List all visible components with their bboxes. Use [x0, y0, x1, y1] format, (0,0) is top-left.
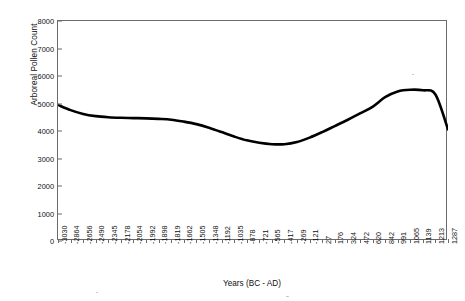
y-axis-tick-mark [58, 76, 62, 77]
x-axis-tick-label: -417 [286, 230, 295, 244]
pollen-count-chart: Arboreal Pollen Count 010002000300040005… [0, 0, 465, 301]
y-axis-tick-mark [58, 21, 62, 22]
y-axis-tick-label: 5000 [10, 99, 58, 108]
x-axis-tick-label: -2656 [85, 226, 94, 244]
x-axis-tick-label: -878 [248, 230, 257, 244]
x-axis-tick-label: 991 [399, 232, 408, 244]
x-axis-tick-label: -269 [299, 230, 308, 244]
y-axis-tick-mark [58, 213, 62, 214]
y-axis-tick-mark [58, 186, 62, 187]
x-axis-title: Years (BC - AD) [57, 279, 447, 288]
y-axis-tick-mark [58, 48, 62, 49]
x-axis-tick-label: -721 [261, 230, 270, 244]
x-axis-tick-mark [385, 239, 386, 243]
x-axis-tick-label: 1287 [450, 228, 459, 244]
x-axis-tick-label: -1819 [173, 226, 182, 244]
x-axis-tick-label: -3030 [60, 226, 69, 244]
y-axis-tick-mark [58, 103, 62, 104]
x-axis-tick-label: 1213 [437, 228, 446, 244]
y-axis-tick-label: 3000 [10, 154, 58, 163]
x-axis-tick-label: 176 [336, 232, 345, 244]
x-axis-tick-label: -2178 [123, 226, 132, 244]
x-axis-tick-label: -2864 [72, 226, 81, 244]
x-axis-tick-label: -1505 [198, 226, 207, 244]
scan-speck [412, 74, 414, 75]
scan-speck [96, 292, 98, 293]
x-axis-tick-label: 27 [324, 236, 333, 244]
y-axis-tick-label: 0 [10, 237, 58, 246]
x-axis-tick-label: -1662 [185, 226, 194, 244]
pollen-curve-line [58, 90, 448, 145]
y-axis-tick-label: 1000 [10, 209, 58, 218]
x-axis-tick-label: -2490 [97, 226, 106, 244]
y-axis-tick-mark [58, 158, 62, 159]
x-axis-tick-mark [58, 239, 59, 243]
y-axis-tick-mark [58, 131, 62, 132]
plot-area: 010002000300040005000600070008000 [57, 20, 447, 240]
scan-speck [286, 296, 289, 297]
x-axis-tick-label: 324 [349, 232, 358, 244]
x-axis-tick-label: -1348 [211, 226, 220, 244]
x-axis-tick-mark [146, 239, 147, 243]
x-axis-tick-label: 842 [387, 232, 396, 244]
x-axis-tick-label: -565 [273, 230, 282, 244]
x-axis-tick-label: -121 [311, 230, 320, 244]
x-axis-tick-mark [121, 239, 122, 243]
y-axis-tick-label: 6000 [10, 72, 58, 81]
x-axis-tick-label: -1192 [223, 226, 232, 244]
y-axis-tick-label: 7000 [10, 44, 58, 53]
x-axis-tick-label: -1992 [148, 226, 157, 244]
x-axis-tick-mark [83, 239, 84, 243]
x-axis-tick-mark [297, 239, 298, 243]
x-axis-tick-label: 620 [374, 232, 383, 244]
x-axis-tick-label: 472 [362, 232, 371, 244]
x-axis-tick-label: -2345 [110, 226, 119, 244]
x-axis-tick-label: -1898 [160, 226, 169, 244]
x-axis-tick-mark [360, 239, 361, 243]
pollen-curve-svg [58, 21, 448, 241]
x-axis-tick-label: -1035 [236, 226, 245, 244]
y-axis-tick-label: 4000 [10, 127, 58, 136]
x-axis-tick-mark [209, 239, 210, 243]
x-axis-tick-label: 1139 [424, 229, 433, 244]
x-axis-tick-label: -2054 [135, 226, 144, 244]
x-axis-tick-mark [234, 239, 235, 243]
y-axis-tick-label: 2000 [10, 182, 58, 191]
y-axis-tick-label: 8000 [10, 17, 58, 26]
x-axis-tick-label: 1065 [412, 228, 421, 244]
x-axis-tick-mark [448, 239, 449, 243]
